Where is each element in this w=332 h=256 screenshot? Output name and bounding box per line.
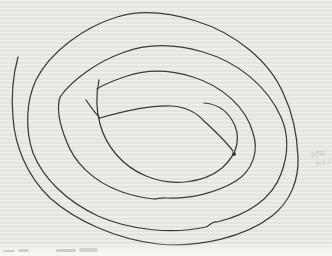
ink-strokes-group bbox=[12, 12, 298, 244]
ink-stroke-center-loop bbox=[97, 80, 238, 182]
caption-smudge-2 bbox=[18, 249, 29, 252]
ink-stroke-outer-spiral bbox=[12, 12, 298, 244]
scanned-paper-page: 206 9/17 bbox=[0, 0, 332, 256]
pen-end-dot bbox=[232, 152, 236, 156]
caption-smudge-1 bbox=[3, 250, 15, 252]
caption-smudge-3 bbox=[56, 249, 76, 252]
spiral-drawing bbox=[0, 0, 332, 256]
caption-smudge-4 bbox=[79, 248, 98, 252]
handwritten-margin-note: 206 9/17 bbox=[310, 149, 332, 169]
